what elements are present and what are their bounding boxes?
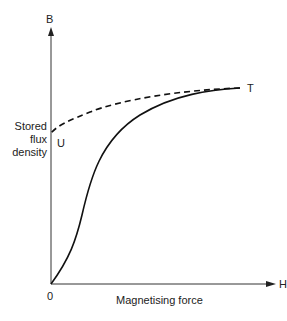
h-axis-arrow-icon — [266, 281, 276, 287]
point-t-label: T — [247, 82, 254, 95]
point-u-label: U — [57, 137, 65, 150]
bh-curve-diagram — [0, 0, 287, 321]
y-axis-title: Stored flux density — [5, 120, 47, 159]
magnetisation-curve — [51, 88, 240, 284]
y-axis-title-line: flux — [5, 133, 47, 146]
y-axis-title-line: density — [5, 146, 47, 159]
y-axis-title-line: Stored — [5, 120, 47, 133]
demagnetisation-curve — [51, 88, 240, 133]
b-axis-label: B — [46, 13, 53, 26]
origin-label: 0 — [47, 290, 53, 303]
x-axis-title: Magnetising force — [116, 294, 203, 307]
b-axis-arrow-icon — [48, 27, 54, 36]
h-axis-label: H — [279, 278, 287, 291]
